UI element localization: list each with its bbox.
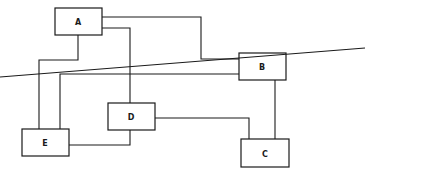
box-d-label: D [128, 113, 135, 122]
graph-edges [0, 48, 365, 77]
wire-a-d [102, 28, 130, 103]
box-a: A [55, 8, 102, 35]
box-b-label: B [259, 63, 265, 72]
box-d: D [108, 103, 155, 130]
wire-a-b [102, 17, 239, 59]
box-e: E [22, 129, 69, 156]
box-a-label: A [75, 18, 82, 27]
layout-wires [39, 17, 275, 145]
box-c: C [241, 139, 289, 167]
diagram-canvas: A B C D E [0, 0, 434, 178]
box-c-label: C [262, 150, 268, 159]
box-e-label: E [42, 139, 47, 148]
wire-a-e [39, 35, 78, 129]
edge-a-b [0, 48, 365, 77]
wire-d-e [69, 130, 130, 145]
wire-d-c [155, 118, 249, 139]
